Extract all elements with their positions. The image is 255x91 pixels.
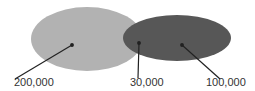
arrow-set-a-head [71,44,74,47]
arrow-set-b-head [181,44,184,47]
set-b-label: 100,000 [206,76,246,88]
set-a-label: 200,000 [14,76,54,88]
overlap-label: 30,000 [130,76,164,88]
arrow-overlap-head [138,42,141,45]
